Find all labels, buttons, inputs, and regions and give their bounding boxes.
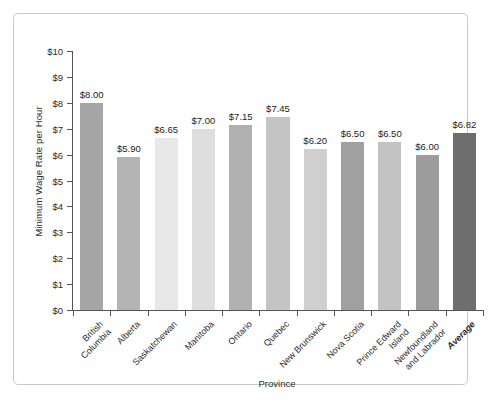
x-tick-mark xyxy=(371,310,372,316)
y-tick-mark xyxy=(67,129,73,130)
y-tick-mark xyxy=(67,51,73,52)
y-tick-label: $2 xyxy=(25,253,63,264)
y-tick-mark xyxy=(67,206,73,207)
x-tick-mark xyxy=(334,310,335,316)
x-tick-mark xyxy=(110,310,111,316)
y-tick-mark xyxy=(67,181,73,182)
bar xyxy=(416,155,439,310)
bar-value-label: $5.90 xyxy=(110,143,147,154)
x-category-label: Ontario xyxy=(226,319,254,347)
bar-value-label: $7.15 xyxy=(222,111,259,122)
y-tick-label: $7 xyxy=(25,123,63,134)
bar xyxy=(266,117,289,310)
bar-value-label: $7.00 xyxy=(185,115,222,126)
bar xyxy=(117,157,140,310)
bar xyxy=(304,149,327,310)
y-tick-label: $5 xyxy=(25,175,63,186)
chart-frame: Minimum Wage Rate per Hour $0$1$2$3$4$5$… xyxy=(13,13,468,385)
y-tick-mark xyxy=(67,103,73,104)
x-tick-mark xyxy=(73,310,74,316)
bar xyxy=(192,129,215,310)
bar-value-label: $6.50 xyxy=(371,128,408,139)
chart-figure: Minimum Wage Rate per Hour $0$1$2$3$4$5$… xyxy=(0,0,497,403)
bar-value-label: $6.82 xyxy=(446,119,483,130)
y-tick-label: $4 xyxy=(25,201,63,212)
y-tick-label: $3 xyxy=(25,227,63,238)
y-tick-label: $10 xyxy=(25,46,63,57)
y-tick-mark xyxy=(67,284,73,285)
y-tick-label: $0 xyxy=(25,305,63,316)
x-axis-title: Province xyxy=(72,378,482,389)
bar-value-label: $7.45 xyxy=(259,103,296,114)
y-tick-mark xyxy=(67,77,73,78)
x-tick-mark xyxy=(446,310,447,316)
x-category-label: British Columbia xyxy=(71,319,113,361)
bar xyxy=(453,133,476,310)
x-tick-mark xyxy=(148,310,149,316)
x-category-label: Manitoba xyxy=(183,319,217,353)
bar-value-label: $6.50 xyxy=(334,128,371,139)
x-tick-mark xyxy=(259,310,260,316)
bar-value-label: $6.65 xyxy=(148,124,185,135)
bar xyxy=(341,142,364,310)
bar-value-label: $8.00 xyxy=(73,89,110,100)
x-category-label: Quebec xyxy=(262,319,292,349)
plot-area: $0$1$2$3$4$5$6$7$8$9$10 $8.00$5.90$6.65$… xyxy=(72,51,483,311)
bar xyxy=(378,142,401,310)
x-tick-mark xyxy=(185,310,186,316)
bar xyxy=(229,125,252,310)
bar-value-label: $6.00 xyxy=(408,141,445,152)
bar xyxy=(80,103,103,310)
bar xyxy=(155,138,178,310)
y-tick-mark xyxy=(67,258,73,259)
x-tick-mark xyxy=(297,310,298,316)
y-tick-mark xyxy=(67,155,73,156)
y-tick-label: $6 xyxy=(25,149,63,160)
y-tick-mark xyxy=(67,232,73,233)
bar-value-label: $6.20 xyxy=(297,135,334,146)
x-category-label: Average xyxy=(445,319,478,352)
y-tick-label: $8 xyxy=(25,97,63,108)
y-tick-label: $9 xyxy=(25,71,63,82)
x-category-label: Alberta xyxy=(115,319,143,347)
y-tick-label: $1 xyxy=(25,279,63,290)
x-tick-mark xyxy=(222,310,223,316)
x-tick-mark xyxy=(483,310,484,316)
x-tick-mark xyxy=(408,310,409,316)
